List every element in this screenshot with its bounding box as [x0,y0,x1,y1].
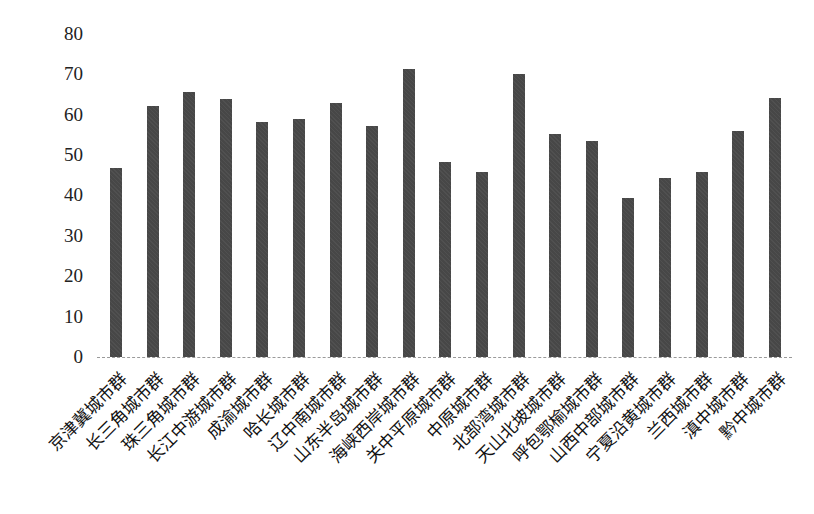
bar [769,98,781,357]
bar [622,198,634,357]
bar [403,69,415,357]
bar [183,92,195,357]
y-tick-label: 0 [43,347,83,367]
bar [220,99,232,357]
y-tick-label: 60 [43,105,83,125]
bar [732,131,744,357]
bar [147,106,159,357]
y-tick-label: 70 [43,64,83,84]
bar [586,141,598,357]
bar [659,178,671,357]
bar [256,122,268,357]
y-tick-label: 30 [43,226,83,246]
y-tick-label: 20 [43,266,83,286]
y-tick-label: 50 [43,145,83,165]
bar [513,74,525,357]
bar [110,168,122,357]
x-axis-line [97,357,792,358]
bar [549,134,561,357]
bar [476,172,488,357]
bar [696,172,708,357]
bar-chart: 01020304050607080 京津冀城市群长三角城市群珠三角城市群长江中游… [0,0,814,514]
bar [439,162,451,357]
y-tick-label: 10 [43,307,83,327]
bar [330,103,342,357]
y-tick-label: 40 [43,185,83,205]
bar [366,126,378,357]
y-tick-label: 80 [43,24,83,44]
bar [293,119,305,357]
